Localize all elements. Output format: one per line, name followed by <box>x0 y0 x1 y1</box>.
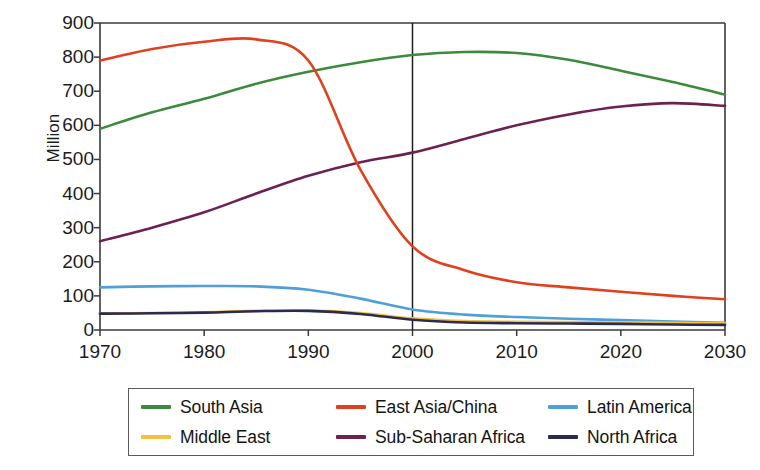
legend-item[interactable]: Middle East <box>141 427 336 448</box>
x-tick-label: 2030 <box>680 342 760 361</box>
legend: South AsiaEast Asia/ChinaLatin AmericaMi… <box>128 388 694 456</box>
legend-color-swatch <box>141 435 171 439</box>
legend-item-label: Latin America <box>587 397 692 418</box>
x-tick-label: 2010 <box>472 342 562 361</box>
x-tick-label: 1980 <box>159 342 249 361</box>
x-tick-label: 1990 <box>263 342 353 361</box>
legend-item-label: Sub-Saharan Africa <box>375 427 525 448</box>
legend-item-label: South Asia <box>180 397 263 418</box>
legend-color-swatch <box>336 405 366 409</box>
legend-color-swatch <box>336 435 366 439</box>
legend-item-label: North Africa <box>587 427 677 448</box>
legend-item-label: Middle East <box>180 427 270 448</box>
legend-color-swatch <box>548 405 578 409</box>
legend-item-label: East Asia/China <box>375 397 497 418</box>
legend-item[interactable]: North Africa <box>548 427 707 448</box>
line-chart: Million 0100200300400500600700800900 197… <box>0 0 760 470</box>
legend-color-swatch <box>548 435 578 439</box>
x-tick-label: 2020 <box>576 342 666 361</box>
legend-item[interactable]: East Asia/China <box>336 397 548 418</box>
x-tick-label: 2000 <box>368 342 458 361</box>
legend-item[interactable]: Sub-Saharan Africa <box>336 427 548 448</box>
legend-item[interactable]: Latin America <box>548 397 707 418</box>
legend-color-swatch <box>141 405 171 409</box>
legend-grid: South AsiaEast Asia/ChinaLatin AmericaMi… <box>129 389 693 455</box>
x-tick-label: 1970 <box>55 342 145 361</box>
legend-item[interactable]: South Asia <box>141 397 336 418</box>
